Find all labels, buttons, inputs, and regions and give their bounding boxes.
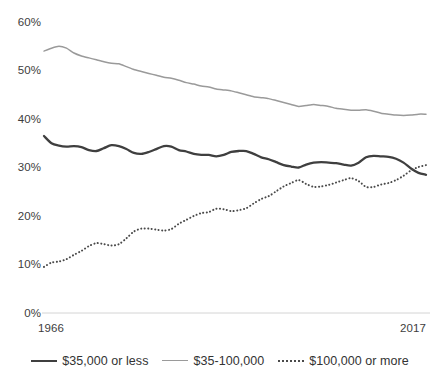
legend-label-middle-income: $35-100,000 — [193, 354, 264, 368]
chart-legend: $35,000 or less $35-100,000 $100,000 or … — [0, 348, 440, 374]
y-tick-30: 30% — [3, 161, 41, 173]
legend-swatch-gray-line-icon — [162, 356, 188, 366]
series-line-lower-income — [44, 136, 426, 175]
legend-item-upper-income[interactable]: $100,000 or more — [278, 354, 408, 368]
plot-svg — [0, 0, 440, 340]
series-line-upper-income — [44, 165, 426, 267]
series-line-middle-income — [44, 46, 426, 115]
y-tick-40: 40% — [3, 113, 41, 125]
y-tick-50: 50% — [3, 64, 41, 76]
y-tick-0: 0% — [3, 307, 41, 319]
x-tick-start: 1966 — [38, 322, 64, 335]
legend-item-lower-income[interactable]: $35,000 or less — [31, 354, 148, 368]
y-tick-20: 20% — [3, 210, 41, 222]
legend-label-upper-income: $100,000 or more — [309, 354, 408, 368]
plot-area: 60% 50% 40% 30% 20% 10% 0% 1966 2017 — [0, 0, 440, 340]
x-axis-tick-labels: 1966 2017 — [0, 322, 440, 340]
x-tick-end: 2017 — [400, 322, 426, 335]
y-tick-10: 10% — [3, 258, 41, 270]
income-tier-share-line-chart: 60% 50% 40% 30% 20% 10% 0% 1966 2017 $35… — [0, 0, 440, 382]
y-axis-tick-labels: 60% 50% 40% 30% 20% 10% 0% — [0, 0, 41, 340]
y-tick-60: 60% — [3, 16, 41, 28]
legend-swatch-solid-line-icon — [31, 356, 57, 366]
legend-item-middle-income[interactable]: $35-100,000 — [162, 354, 264, 368]
legend-swatch-dotted-line-icon — [278, 356, 304, 366]
legend-label-lower-income: $35,000 or less — [62, 354, 148, 368]
